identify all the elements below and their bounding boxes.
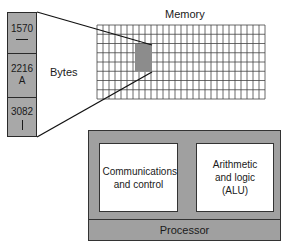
- byte-cell: 3082: [8, 98, 36, 136]
- unit-label: Communications and control: [103, 165, 175, 191]
- zoom-line-bottom: [37, 72, 152, 137]
- byte-address: 1570: [11, 23, 33, 34]
- unit-label: Arithmetic and logic (ALU): [207, 158, 263, 197]
- byte-value: A: [8, 75, 36, 87]
- bytes-label: Bytes: [50, 66, 78, 78]
- zoom-line-top: [37, 12, 152, 45]
- byte-address: 3082: [11, 106, 33, 117]
- byte-cell: 2216 A: [8, 54, 36, 98]
- alu-unit: Arithmetic and logic (ALU): [196, 143, 274, 212]
- bar-glyph-icon: [22, 120, 23, 130]
- highlighted-memory-block: [135, 44, 152, 72]
- communications-control-unit: Communications and control: [99, 143, 178, 212]
- byte-address: 2216: [11, 63, 33, 74]
- bytes-column: 1570 2216 A 3082: [7, 12, 37, 137]
- processor-box: Communications and control Arithmetic an…: [88, 130, 281, 241]
- dash-glyph-icon: [16, 39, 28, 40]
- byte-cell: 1570: [8, 13, 36, 54]
- processor-label: Processor: [89, 219, 280, 240]
